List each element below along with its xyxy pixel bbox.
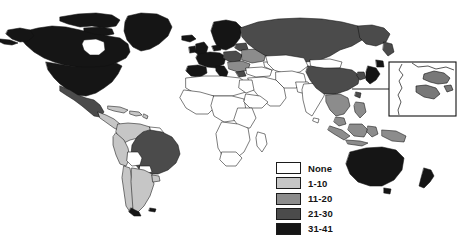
region-japan-north: [376, 60, 384, 67]
legend-swatch-31-41: [276, 223, 301, 235]
region-denmark: [212, 45, 221, 51]
legend-swatch-none: [276, 162, 301, 174]
legend-swatch-1-10: [276, 177, 301, 189]
legend-label-21-30: 21-30: [308, 209, 333, 219]
legend-item-none: None: [276, 161, 356, 176]
legend-item-21-30: 21-30: [276, 207, 356, 222]
world-map-figure: None 1-10 11-20 21-30 31-41: [0, 0, 464, 251]
map-legend: None 1-10 11-20 21-30 31-41: [276, 161, 356, 237]
region-tasmania: [384, 188, 391, 194]
legend-swatch-21-30: [276, 208, 301, 220]
legend-item-1-10: 1-10: [276, 176, 356, 191]
legend-label-1-10: 1-10: [308, 179, 327, 189]
legend-swatch-11-20: [276, 193, 301, 205]
region-falklands: [149, 208, 156, 212]
legend-label-31-41: 31-41: [308, 224, 333, 234]
legend-label-11-20: 11-20: [308, 194, 332, 204]
legend-label-none: None: [308, 164, 332, 174]
world-choropleth-map: [0, 0, 464, 251]
region-ireland: [189, 46, 196, 53]
legend-item-11-20: 11-20: [276, 191, 356, 206]
legend-item-31-41: 31-41: [276, 222, 356, 237]
region-uruguay: [152, 175, 160, 182]
